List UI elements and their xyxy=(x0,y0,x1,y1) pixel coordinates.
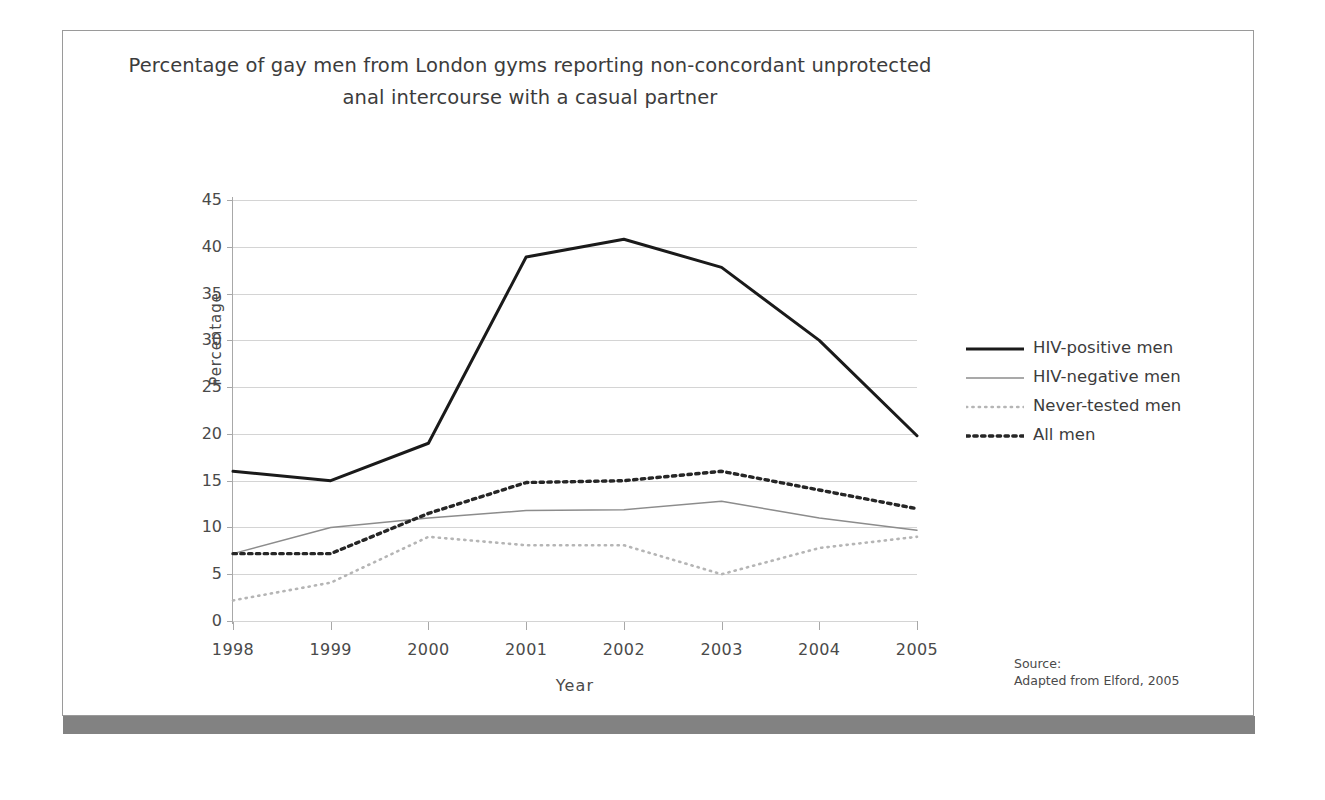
x-axis-title: Year xyxy=(233,676,917,695)
x-axis-tick-mark xyxy=(917,622,918,630)
figure-frame-shadow-bar xyxy=(63,716,1255,734)
y-axis-tick-label: 5 xyxy=(182,564,222,583)
x-axis-tick-label: 2001 xyxy=(481,640,571,659)
x-axis-tick-mark xyxy=(428,622,429,630)
x-axis-tick-mark xyxy=(722,622,723,630)
page-root: Percentage of gay men from London gyms r… xyxy=(0,0,1325,800)
legend-swatch-icon xyxy=(966,341,1024,355)
gridline xyxy=(233,200,917,201)
x-axis-tick-mark xyxy=(624,622,625,630)
gridline xyxy=(233,294,917,295)
x-axis-tick-label: 2000 xyxy=(383,640,473,659)
gridline xyxy=(233,574,917,575)
legend-label: Never-tested men xyxy=(1033,396,1181,415)
y-axis-tick-mark xyxy=(227,481,233,482)
chart-title-line-1: Percentage of gay men from London gyms r… xyxy=(120,50,940,82)
gridline xyxy=(233,621,917,622)
legend-item-0[interactable]: HIV-positive men xyxy=(966,333,1226,362)
legend-swatch-icon xyxy=(966,428,1024,442)
y-axis-tick-mark xyxy=(227,200,233,201)
source-text: Adapted from Elford, 2005 xyxy=(1014,672,1179,689)
chart-title-line-2: anal intercourse with a casual partner xyxy=(120,82,940,114)
y-axis-title: Percentage xyxy=(207,259,225,419)
legend-label: HIV-positive men xyxy=(1033,338,1173,357)
plot-area xyxy=(233,200,917,621)
y-axis-tick-mark xyxy=(227,247,233,248)
source-label: Source: xyxy=(1014,655,1179,672)
x-axis-tick-mark xyxy=(331,622,332,630)
gridline xyxy=(233,387,917,388)
x-axis-tick-label: 1999 xyxy=(286,640,376,659)
legend-swatch-icon xyxy=(966,370,1024,384)
y-axis-tick-mark xyxy=(227,294,233,295)
x-axis-tick-label: 2004 xyxy=(774,640,864,659)
gridline xyxy=(233,527,917,528)
chart-title: Percentage of gay men from London gyms r… xyxy=(120,50,940,114)
gridline xyxy=(233,340,917,341)
x-axis-tick-label: 2002 xyxy=(579,640,669,659)
y-axis-tick-mark xyxy=(227,527,233,528)
y-axis-tick-label: 20 xyxy=(182,424,222,443)
legend-item-2[interactable]: Never-tested men xyxy=(966,391,1226,420)
chart-legend: HIV-positive menHIV-negative menNever-te… xyxy=(966,333,1226,449)
x-axis-tick-mark xyxy=(526,622,527,630)
x-axis-tick-mark xyxy=(233,622,234,630)
legend-label: All men xyxy=(1033,425,1095,444)
y-axis-tick-mark xyxy=(227,574,233,575)
x-axis-tick-mark xyxy=(819,622,820,630)
y-axis-tick-mark xyxy=(227,340,233,341)
legend-label: HIV-negative men xyxy=(1033,367,1181,386)
gridline xyxy=(233,247,917,248)
y-axis-tick-label: 10 xyxy=(182,517,222,536)
y-axis-tick-mark xyxy=(227,387,233,388)
x-axis-tick-label: 1998 xyxy=(188,640,278,659)
legend-item-3[interactable]: All men xyxy=(966,420,1226,449)
source-note: Source: Adapted from Elford, 2005 xyxy=(1014,655,1179,689)
legend-item-1[interactable]: HIV-negative men xyxy=(966,362,1226,391)
x-axis-tick-label: 2003 xyxy=(677,640,767,659)
y-axis-tick-label: 0 xyxy=(182,611,222,630)
y-axis-tick-mark xyxy=(227,434,233,435)
gridline xyxy=(233,481,917,482)
y-axis-tick-label: 40 xyxy=(182,237,222,256)
x-axis-tick-label: 2005 xyxy=(872,640,962,659)
gridline xyxy=(233,434,917,435)
legend-swatch-icon xyxy=(966,399,1024,413)
y-axis-tick-label: 45 xyxy=(182,190,222,209)
y-axis-tick-label: 15 xyxy=(182,471,222,490)
